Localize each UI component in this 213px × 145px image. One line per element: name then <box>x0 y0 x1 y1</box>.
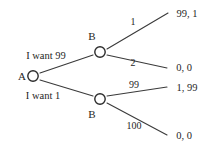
payoff-label-top-0-0: 0, 0 <box>176 63 192 74</box>
edge-b-top-to-payoff-99-1 <box>107 13 168 49</box>
node-b-bottom-circle <box>95 94 105 104</box>
action-label-99: 99 <box>129 80 139 90</box>
payoff-label-99-1: 99, 1 <box>177 9 198 20</box>
intent-label-i-want-99: I want 99 <box>26 51 66 62</box>
action-label-100: 100 <box>127 121 142 131</box>
action-label-2: 2 <box>131 58 136 68</box>
node-b-top-circle <box>95 47 105 57</box>
node-label-a: A <box>18 71 26 82</box>
intent-label-i-want-1: I want 1 <box>26 91 60 102</box>
node-label-b-top: B <box>88 31 95 42</box>
node-label-b-bottom: B <box>88 109 95 120</box>
action-label-1: 1 <box>131 17 136 27</box>
node-a-circle <box>28 71 38 81</box>
payoff-label-1-99: 1, 99 <box>177 83 198 94</box>
edge-b-top-to-payoff-0-0 <box>107 55 167 68</box>
game-tree-figure: A B B I want 99 I want 1 1 2 99 100 99, … <box>0 0 213 145</box>
payoff-label-bottom-0-0: 0, 0 <box>176 131 192 142</box>
